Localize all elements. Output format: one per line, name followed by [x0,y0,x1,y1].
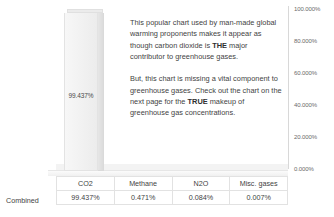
table-header-row: CO2 Methane N2O Misc. gases [57,177,288,191]
axis-tick-80: 80.000% [294,38,317,44]
data-table-block: Combined CO2 Methane N2O Misc. gases 99.… [0,176,334,217]
value-axis-line [288,6,289,169]
annotation-paragraph-2: But, this chart is missing a vital compo… [130,73,282,118]
table-value-co2: 99.437% [57,191,115,205]
data-table: CO2 Methane N2O Misc. gases 99.437% 0.47… [56,176,288,205]
axis-tick-40: 40.000% [294,102,317,108]
table-row: 99.437% 0.471% 0.084% 0.007% [57,191,288,205]
bar-co2[interactable]: 99.437% [64,9,105,171]
plot-area: 99.437% This popular chart used by man-m… [0,0,334,176]
annotation-p1-text-before-bold: This popular chart used by man-made glob… [130,18,276,50]
table-header-misc: Misc. gases [230,177,288,191]
annotation-paragraph-1: This popular chart used by man-made glob… [130,17,282,62]
table-value-misc: 0.007% [230,191,288,205]
axis-tick-100: 100.000% [294,6,320,12]
axis-tick-0: 0.000% [294,166,314,172]
annotation-text-block: This popular chart used by man-made glob… [130,17,282,119]
table-value-n2o: 0.084% [172,191,230,205]
annotation-p1-bold-word: THE [212,41,227,50]
table-value-methane: 0.471% [114,191,172,205]
axis-tick-20: 20.000% [294,134,317,140]
table-row-label-combined: Combined [6,196,54,205]
bar-co2-value-label: 99.437% [64,92,98,99]
table-header-n2o: N2O [172,177,230,191]
annotation-p2-bold-word: TRUE [188,97,208,106]
value-axis-labels: 100.000% 80.000% 60.000% 40.000% 20.000%… [294,0,334,176]
table-header-methane: Methane [114,177,172,191]
bar-co2-side-face [98,13,104,171]
chart-screenshot: 99.437% This popular chart used by man-m… [0,0,334,217]
axis-tick-60: 60.000% [294,70,317,76]
table-header-co2: CO2 [57,177,115,191]
